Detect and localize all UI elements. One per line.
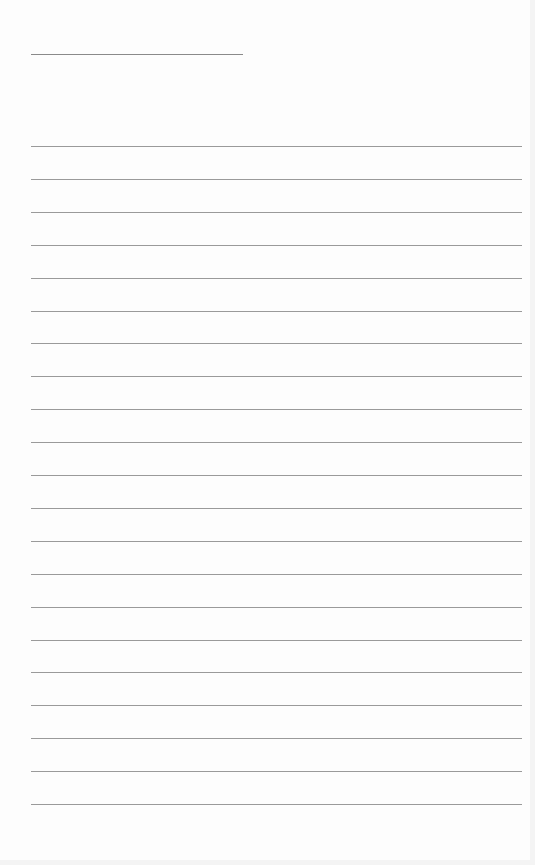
ruled-line [31,475,522,476]
ruled-line [31,278,522,279]
ruled-line [31,771,522,772]
title-line [31,54,243,55]
ruled-line [31,607,522,608]
ruled-line [31,212,522,213]
ruled-line [31,541,522,542]
ruled-line [31,640,522,641]
ruled-line [31,311,522,312]
ruled-line [31,672,522,673]
ruled-line [31,738,522,739]
ruled-line [31,442,522,443]
ruled-line [31,146,522,147]
ruled-line [31,409,522,410]
ruled-line [31,179,522,180]
ruled-line [31,705,522,706]
ruled-line [31,508,522,509]
ruled-line [31,376,522,377]
ruled-line [31,245,522,246]
ruled-line [31,804,522,805]
lined-paper [0,0,530,860]
ruled-line [31,343,522,344]
ruled-line [31,574,522,575]
